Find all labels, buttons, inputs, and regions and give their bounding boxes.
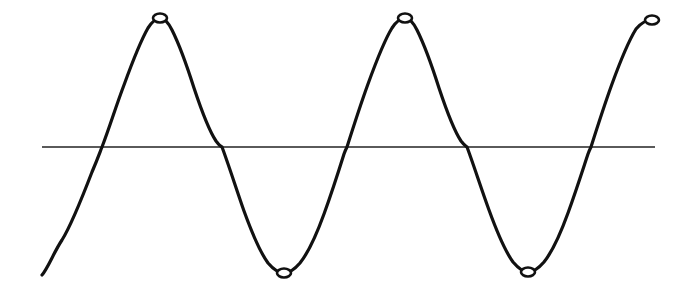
marker-peak-1 (153, 14, 167, 23)
marker-peak-3 (645, 16, 659, 25)
marker-trough-2 (521, 268, 535, 277)
marker-trough-1 (277, 269, 291, 278)
sine-wave-chart (0, 0, 683, 297)
figure-root (0, 0, 683, 297)
marker-peak-2 (398, 14, 412, 23)
